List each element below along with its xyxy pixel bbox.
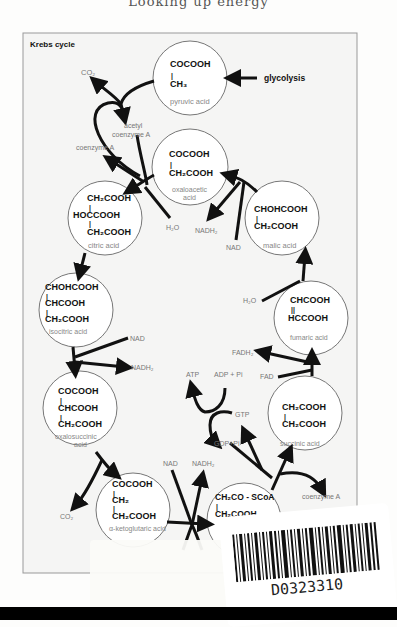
barcode-number: D0323310 xyxy=(270,575,344,599)
svg-text:CH₂COOH: CH₂COOH xyxy=(112,511,156,521)
molecule-succinic: CH₂COOH | CH₂COOH succinic acid xyxy=(268,376,342,450)
svg-text:CH₂COOH: CH₂COOH xyxy=(282,402,326,412)
svg-text:COCOOH: COCOOH xyxy=(169,149,210,159)
svg-text:CH₂CO - SCoA: CH₂CO - SCoA xyxy=(215,492,275,502)
svg-text:CH₂COOH: CH₂COOH xyxy=(58,419,102,429)
svg-text:CH₂COOH: CH₂COOH xyxy=(169,168,213,178)
label-nad-malic: NAD xyxy=(226,244,241,251)
svg-text:isocitric acid: isocitric acid xyxy=(49,328,87,335)
diagram-title: Krebs cycle xyxy=(30,40,75,49)
svg-text:CHOHCOOH: CHOHCOOH xyxy=(45,282,99,292)
svg-text:CH₂: CH₂ xyxy=(112,495,129,505)
svg-text:CH₂COOH: CH₂COOH xyxy=(45,314,89,324)
svg-text:fumaric acid: fumaric acid xyxy=(290,334,328,341)
molecule-pyruvic: COCOOH | CH₃ pyruvic acid xyxy=(153,41,227,115)
barcode-bars-icon xyxy=(232,522,381,582)
label-nadh2-keto: NADH₂ xyxy=(192,460,215,467)
label-acetyl: acetyl xyxy=(124,122,143,130)
label-h2o-citric: H₂O xyxy=(166,224,180,231)
svg-text:HOCCOOH: HOCCOOH xyxy=(73,210,120,220)
bottom-black-edge xyxy=(0,607,397,620)
svg-text:pyruvic acid: pyruvic acid xyxy=(170,97,210,106)
svg-text:acid: acid xyxy=(183,194,196,201)
svg-text:COCOOH: COCOOH xyxy=(170,59,211,69)
svg-text:CHCOOH: CHCOOH xyxy=(58,403,98,413)
molecule-oxaloacetic: COCOOH | CH₂COOH oxaloacetic acid xyxy=(152,129,228,205)
svg-text:acid: acid xyxy=(74,441,87,448)
svg-text:COCOOH: COCOOH xyxy=(58,386,99,396)
svg-text:CH₂COOH: CH₂COOH xyxy=(254,221,298,231)
molecule-isocitric: CHOHCOOH | CHCOOH | CH₂COOH isocitric ac… xyxy=(39,273,113,347)
svg-text:succinic acid: succinic acid xyxy=(280,440,320,447)
label-nadh2-malic: NADH₂ xyxy=(195,227,218,234)
label-fad: FAD xyxy=(260,373,274,380)
label-gtp: GTP xyxy=(235,411,250,418)
label-fadh2: FADH₂ xyxy=(232,349,254,356)
molecule-citric: CH₂COOH | HOCCOOH | CH₂COOH citric acid xyxy=(68,181,142,255)
label-coenzyme-a-left: coenzyme A xyxy=(76,144,114,152)
label-co2-top: CO₂ xyxy=(81,68,95,77)
molecule-fumaric: CHCOOH || HCCOOH fumaric acid xyxy=(274,281,348,355)
svg-text:CH₂COOH: CH₂COOH xyxy=(87,227,131,237)
svg-text:malic acid: malic acid xyxy=(263,241,296,250)
label-nad-iso: NAD xyxy=(130,335,145,342)
label-glycolysis: glycolysis xyxy=(264,73,305,83)
label-nad-keto: NAD xyxy=(163,460,178,467)
svg-text:CHOHCOOH: CHOHCOOH xyxy=(254,204,308,214)
molecule-ketoglutaric: COCOOH | CH₂ | CH₂COOH α-ketoglutaric ac… xyxy=(96,473,170,547)
label-gdp-pi: GDP+Pi xyxy=(214,440,240,447)
svg-text:oxaloacetic: oxaloacetic xyxy=(172,186,208,193)
label-adp-pi: ADP + Pi xyxy=(214,371,243,378)
label-nadh2-iso: NADH₂ xyxy=(131,364,154,371)
label-h2o-fumaric: H₂O xyxy=(243,297,257,304)
label-co2-bottom: CO₂ xyxy=(60,513,74,520)
svg-text:HCCOOH: HCCOOH xyxy=(288,313,328,323)
svg-text:CH₃: CH₃ xyxy=(170,79,187,89)
svg-text:COCOOH: COCOOH xyxy=(112,479,153,489)
label-acetyl-coenzyme-a: coenzyme A xyxy=(112,131,150,139)
svg-text:CHCOOH: CHCOOH xyxy=(45,298,85,308)
svg-text:citric acid: citric acid xyxy=(88,241,119,250)
svg-text:oxalosuccinic: oxalosuccinic xyxy=(55,433,97,440)
svg-text:CH₂COOH: CH₂COOH xyxy=(87,193,131,203)
label-atp: ATP xyxy=(186,371,199,378)
svg-text:CHCOOH: CHCOOH xyxy=(290,295,330,305)
label-coenzyme-a-right: coenzyme A xyxy=(302,493,340,501)
svg-text:α-ketoglutaric acid: α-ketoglutaric acid xyxy=(109,525,166,533)
svg-text:CH₂COOH: CH₂COOH xyxy=(282,419,326,429)
paper-sticker xyxy=(90,540,230,612)
